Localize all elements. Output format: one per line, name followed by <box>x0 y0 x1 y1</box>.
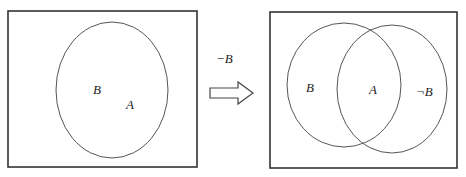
left-panel: B A <box>8 11 197 167</box>
venn-diagram-canvas: B A −B B A ¬B <box>0 0 466 177</box>
right-label-b: B <box>306 80 314 95</box>
left-ellipse-b <box>56 22 168 158</box>
left-label-a: A <box>125 97 134 112</box>
left-universe-box <box>8 11 197 167</box>
right-arrow-icon <box>210 82 253 104</box>
right-panel: B A ¬B <box>270 12 457 168</box>
right-circle-b <box>287 23 401 147</box>
right-label-not-b: ¬B <box>416 84 433 99</box>
left-label-b: B <box>93 82 101 97</box>
operation-label: −B <box>216 51 233 66</box>
transition: −B <box>210 51 253 104</box>
right-label-a: A <box>368 82 377 97</box>
